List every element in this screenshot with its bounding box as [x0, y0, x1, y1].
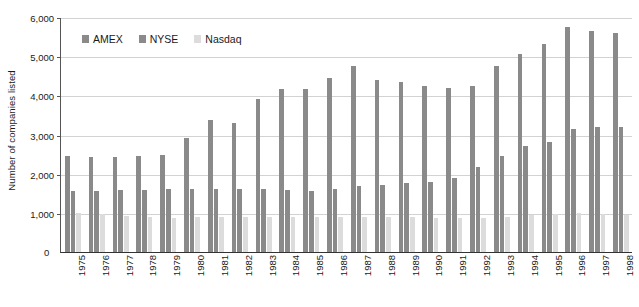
bar-nasdaq — [410, 217, 415, 252]
bar-amex — [113, 157, 118, 252]
bar-nasdaq — [172, 218, 177, 252]
bar-nyse — [619, 127, 624, 252]
bar-nasdaq — [267, 217, 272, 252]
y-axis-tick-label: 4,000 — [30, 91, 54, 102]
bar-nyse — [94, 191, 99, 252]
bar-nasdaq — [315, 217, 320, 252]
legend-swatch-icon — [194, 35, 201, 43]
bar-group — [204, 18, 228, 252]
bar-amex — [208, 120, 213, 252]
bar-nyse — [237, 189, 242, 252]
bar-nyse — [214, 189, 219, 252]
bar-nyse — [357, 186, 362, 252]
bar-nyse — [404, 183, 409, 252]
x-axis-tick-label: 1978 — [147, 255, 158, 276]
x-axis-tick-label: 1992 — [481, 255, 492, 276]
bar-amex — [613, 33, 618, 252]
bar-nasdaq — [76, 213, 81, 252]
bar-amex — [470, 86, 475, 252]
bar-nasdaq — [338, 217, 343, 252]
bar-group — [276, 18, 300, 252]
bar-nasdaq — [219, 217, 224, 252]
bar-amex — [446, 88, 451, 253]
x-axis-tick-label: 1986 — [338, 255, 349, 276]
x-axis-tick-label: 1985 — [314, 255, 325, 276]
bar-group — [538, 18, 562, 252]
bar-amex — [518, 54, 523, 252]
bar-group — [395, 18, 419, 252]
bar-group — [85, 18, 109, 252]
bar-group — [371, 18, 395, 252]
bar-nyse — [285, 190, 290, 252]
bar-nyse — [142, 190, 147, 252]
bar-nyse — [428, 182, 433, 252]
bar-nasdaq — [362, 217, 367, 252]
bar-nyse — [476, 167, 481, 252]
bar-group — [61, 18, 85, 252]
bar-amex — [232, 123, 237, 252]
bar-nyse — [523, 146, 528, 252]
bar-nyse — [500, 156, 505, 252]
bar-group — [466, 18, 490, 252]
bar-amex — [422, 86, 427, 252]
x-axis-tick-label: 1989 — [410, 255, 421, 276]
y-axis-tick-label: 1,000 — [30, 208, 54, 219]
bar-amex — [89, 157, 94, 252]
bar-nyse — [571, 129, 576, 252]
bar-nasdaq — [386, 217, 391, 252]
x-axis-tick-label: 1995 — [553, 255, 564, 276]
bar-amex — [542, 44, 547, 252]
x-axis-tick-label: 1975 — [76, 255, 87, 276]
bar-nasdaq — [195, 217, 200, 252]
y-axis-tick-label: 6,000 — [30, 13, 54, 24]
bar-amex — [256, 99, 261, 252]
bar-amex — [184, 138, 189, 252]
bar-nasdaq — [577, 213, 582, 252]
bar-group — [585, 18, 609, 252]
legend-swatch-icon — [139, 35, 146, 43]
bar-nyse — [452, 178, 457, 252]
x-axis-tick-label: 1996 — [576, 255, 587, 276]
x-axis-tick-label: 1977 — [124, 255, 135, 276]
bar-nasdaq — [553, 214, 558, 252]
bar-nyse — [118, 190, 123, 252]
bar-nasdaq — [434, 218, 439, 252]
bar-nasdaq — [458, 218, 463, 252]
bar-group — [133, 18, 157, 252]
bar-nasdaq — [601, 214, 606, 252]
legend-item[interactable]: NYSE — [139, 33, 179, 45]
bar-nasdaq — [243, 217, 248, 252]
x-axis-tick-label: 1988 — [386, 255, 397, 276]
bar-group — [323, 18, 347, 252]
x-axis-tick-label: 1990 — [433, 255, 444, 276]
bars-layer — [61, 18, 632, 252]
bar-amex — [160, 155, 165, 252]
bar-group — [347, 18, 371, 252]
x-axis-tick-label: 1976 — [100, 255, 111, 276]
legend-item[interactable]: Nasdaq — [194, 33, 241, 45]
bar-nyse — [380, 185, 385, 252]
bar-nasdaq — [624, 215, 629, 252]
y-axis-tick-label: 5,000 — [30, 52, 54, 63]
y-axis-tick-label: 3,000 — [30, 130, 54, 141]
bar-nyse — [166, 189, 171, 252]
bar-amex — [565, 27, 570, 252]
y-axis-title: Number of companies listed — [0, 0, 22, 260]
bar-group — [514, 18, 538, 252]
bar-amex — [375, 80, 380, 252]
x-axis-tick-label: 1998 — [624, 255, 635, 276]
bar-amex — [494, 66, 499, 252]
legend-label: NYSE — [150, 33, 179, 45]
bar-nasdaq — [100, 214, 105, 252]
bar-nyse — [261, 189, 266, 252]
bar-nasdaq — [148, 217, 153, 252]
bar-nasdaq — [505, 217, 510, 252]
x-axis-tick-label: 1983 — [267, 255, 278, 276]
bar-group — [299, 18, 323, 252]
plot-area — [60, 18, 632, 253]
legend-label: Nasdaq — [205, 33, 241, 45]
bar-nasdaq — [124, 216, 129, 252]
bar-nasdaq — [529, 215, 534, 252]
bar-nyse — [547, 142, 552, 252]
legend-item[interactable]: AMEX — [82, 33, 123, 45]
